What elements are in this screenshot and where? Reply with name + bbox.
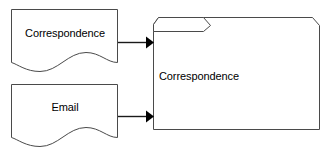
arrowhead-email [146,111,154,123]
connector-email-to-folder[interactable] [118,111,154,123]
document-shape-correspondence[interactable] [12,10,118,72]
folder-tab [154,18,211,32]
diagram-canvas: Correspondence Email Correspondence [0,0,331,158]
document-label-email: Email [18,101,112,113]
document-shape-email[interactable] [12,85,118,147]
folder-label-correspondence: Correspondence [159,70,239,82]
arrowhead-correspondence [146,37,154,49]
connector-correspondence-to-folder[interactable] [118,37,154,49]
document-label-correspondence: Correspondence [18,27,112,39]
